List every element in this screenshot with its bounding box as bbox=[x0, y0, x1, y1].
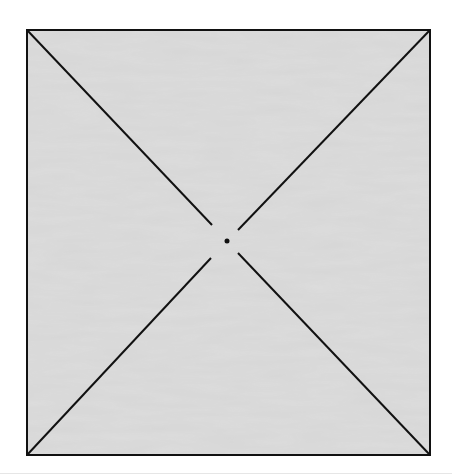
center-dot bbox=[225, 239, 230, 244]
bottom-divider bbox=[0, 473, 452, 474]
square-diagonals-diagram bbox=[0, 0, 452, 475]
